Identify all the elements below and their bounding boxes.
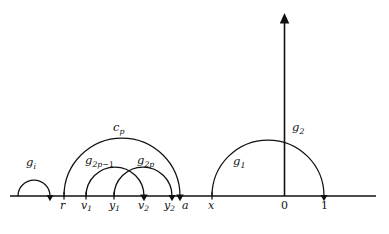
diagram-canvas <box>0 0 389 234</box>
arc-cp <box>64 138 180 196</box>
geodesic-arc-diagram: r v1 y1 v2 y2 a x 0 1 gi cp g2p−1 g2p g1… <box>0 0 389 234</box>
curve-label-g2p: g2p <box>137 155 154 167</box>
tick-label-y2: y2 <box>164 200 175 211</box>
tick-label-v2: v2 <box>138 200 149 211</box>
curve-label-gi: gi <box>26 157 36 169</box>
tick-label-a: a <box>182 200 189 211</box>
tick-label-zero: 0 <box>281 200 288 211</box>
arc-g1 <box>212 140 324 196</box>
curve-label-g2p-minus-1: g2p−1 <box>85 155 114 167</box>
curve-label-g1: g1 <box>233 156 245 168</box>
tick-label-v1: v1 <box>81 200 92 211</box>
tick-label-x: x <box>208 200 214 211</box>
tick-label-one: 1 <box>321 200 328 211</box>
tick-label-y1: y1 <box>109 200 120 211</box>
arc-g2p-minus-1 <box>86 167 144 196</box>
curve-label-g2: g2 <box>292 122 304 134</box>
arc-gi <box>18 180 50 196</box>
arc-g2p <box>114 167 172 196</box>
tick-label-r: r <box>60 200 65 211</box>
curve-label-cp: cp <box>113 122 124 134</box>
